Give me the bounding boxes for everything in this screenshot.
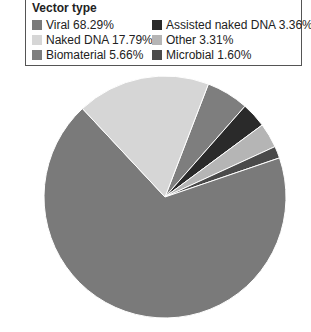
pie-chart [0,0,311,332]
pie-slices [44,76,286,318]
